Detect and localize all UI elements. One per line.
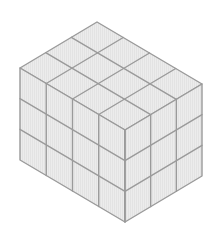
isometric-cube-prism bbox=[0, 0, 210, 226]
cube-figure bbox=[0, 0, 210, 226]
prism-faces bbox=[20, 22, 202, 222]
